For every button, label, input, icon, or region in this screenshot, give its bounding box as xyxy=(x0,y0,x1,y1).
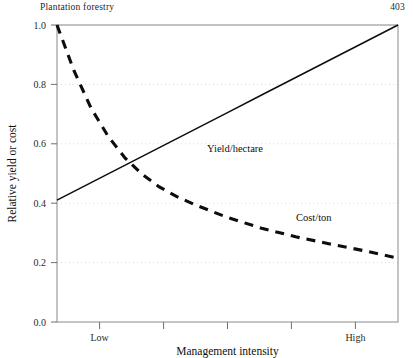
y-ticklabel-0-6: 0.6 xyxy=(34,138,47,149)
x-ticklabel-high: High xyxy=(345,332,365,343)
chart-svg: 1.0 0.8 0.6 0.4 0.2 0.0 Relative yield o… xyxy=(0,0,413,358)
annotation-yield-hectare: Yield/hectare xyxy=(207,143,263,154)
x-ticklabel-low: Low xyxy=(90,332,109,343)
annotation-cost-ton: Cost/ton xyxy=(296,212,332,223)
x-axis-ticks xyxy=(100,322,356,329)
y-axis-ticks xyxy=(51,25,57,322)
y-ticklabel-1-0: 1.0 xyxy=(34,20,47,31)
y-axis-ticklabels: 1.0 0.8 0.6 0.4 0.2 0.0 xyxy=(34,20,47,328)
y-ticklabel-0-8: 0.8 xyxy=(34,79,47,90)
y-ticklabel-0-2: 0.2 xyxy=(34,257,47,268)
series-line-yield-hectare xyxy=(57,25,398,200)
x-axis-title: Management intensity xyxy=(176,345,279,358)
y-axis-title: Relative yield or cost xyxy=(6,124,19,223)
figure-relative-yield-cost: 1.0 0.8 0.6 0.4 0.2 0.0 Relative yield o… xyxy=(0,0,413,358)
y-ticklabel-0-0: 0.0 xyxy=(34,317,47,328)
series-line-cost-ton xyxy=(57,25,398,258)
y-ticklabel-0-4: 0.4 xyxy=(34,198,47,209)
